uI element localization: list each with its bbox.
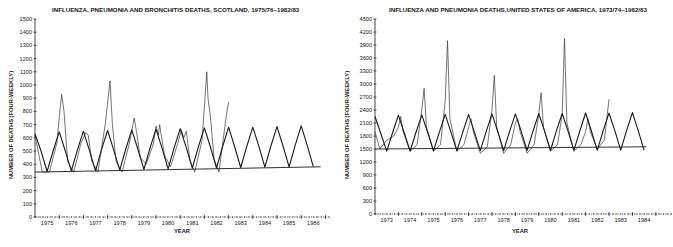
y-tick-label: 1100: [20, 69, 32, 75]
observed-deaths-line: [35, 72, 229, 172]
y-tick-label: 600: [363, 185, 372, 191]
x-tick-label: 1981: [186, 220, 198, 226]
y-axis: 0100200300400500600700800900100011001200…: [20, 16, 37, 220]
y-tick-label: 3900: [360, 42, 372, 48]
x-tick-label: 1983: [234, 220, 246, 226]
x-axis-label: YEAR: [174, 228, 191, 234]
x-tick-label: 1978: [113, 220, 125, 226]
y-tick-label: 1000: [20, 82, 32, 88]
y-tick-label: 900: [23, 95, 32, 101]
x-tick-label: 1983: [614, 217, 626, 223]
y-tick-label: 1400: [20, 29, 32, 35]
y-tick-label: 600: [23, 135, 32, 141]
x-axis: 1975197619771978197919801981198219831984…: [35, 215, 330, 226]
y-tick-label: 300: [23, 174, 32, 180]
baseline-trend-line: [35, 167, 321, 172]
x-tick-label: 1986: [307, 220, 319, 226]
y-tick-label: 900: [363, 172, 372, 178]
x-tick-label: 1977: [474, 217, 486, 223]
y-tick-label: 3300: [360, 68, 372, 74]
observed-deaths-line: [375, 39, 609, 154]
y-tick-label: 2700: [360, 94, 372, 100]
y-tick-label: 3000: [360, 81, 372, 87]
plot-lines: [35, 72, 321, 172]
x-tick-label: 1985: [283, 220, 295, 226]
x-tick-label: 1975: [41, 220, 53, 226]
y-tick-label: 2400: [360, 107, 372, 113]
y-tick-label: 1200: [20, 56, 32, 62]
x-tick-label: 1976: [451, 217, 463, 223]
y-tick-label: 100: [23, 201, 32, 207]
y-tick-label: 300: [363, 198, 372, 204]
x-tick-label: 1982: [591, 217, 603, 223]
fitted-seasonal-line: [35, 126, 313, 172]
y-tick-label: 3600: [360, 55, 372, 61]
y-axis-label: NUMBER OF DEATHS (FOUR-WEEKLY): [344, 71, 350, 179]
y-tick-label: 500: [23, 148, 32, 154]
y-tick-label: 1800: [360, 133, 372, 139]
x-tick-label: 1984: [638, 217, 650, 223]
usa-deaths-chart: INFLUENZA AND PNEUMONIA DEATHS,UNITED ST…: [337, 0, 673, 247]
y-tick-label: 4500: [360, 16, 372, 22]
x-tick-label: 1977: [89, 220, 101, 226]
y-axis: 0300600900120015001800210024002700300033…: [360, 16, 377, 217]
x-tick-label: 1980: [162, 220, 174, 226]
x-tick-label: 1976: [65, 220, 77, 226]
y-tick-label: 400: [23, 161, 32, 167]
y-tick-label: 2100: [360, 120, 372, 126]
x-tick-label: 1978: [497, 217, 509, 223]
y-tick-label: 0: [29, 214, 32, 220]
plot-lines: [375, 39, 646, 154]
y-tick-label: 1500: [360, 146, 372, 152]
y-tick-label: 1500: [20, 16, 32, 22]
fitted-seasonal-line: [375, 113, 644, 152]
y-tick-label: 1300: [20, 42, 32, 48]
x-tick-label: 1984: [259, 220, 271, 226]
scotland-chart-svg: INFLUENZA, PNEUMONIA AND BRONCHITIS DEAT…: [0, 0, 336, 247]
usa-chart-svg: INFLUENZA AND PNEUMONIA DEATHS,UNITED ST…: [337, 0, 673, 247]
x-axis-label: YEAR: [512, 228, 529, 234]
y-tick-label: 200: [23, 188, 32, 194]
y-tick-label: 700: [23, 122, 32, 128]
x-tick-label: 1979: [521, 217, 533, 223]
y-tick-label: 4200: [360, 29, 372, 35]
x-tick-label: 1973: [380, 217, 392, 223]
chart-title: INFLUENZA, PNEUMONIA AND BRONCHITIS DEAT…: [52, 6, 300, 13]
y-tick-label: 1200: [360, 159, 372, 165]
x-tick-label: 1981: [568, 217, 580, 223]
baseline-trend-line: [375, 147, 646, 149]
y-axis-label: NUMBER OF DEATHS (FOUR-WEEKLY): [8, 71, 14, 179]
chart-title: INFLUENZA AND PNEUMONIA DEATHS,UNITED ST…: [389, 6, 648, 13]
x-tick-label: 1980: [544, 217, 556, 223]
x-tick-label: 1974: [404, 217, 416, 223]
x-tick-label: 1982: [210, 220, 222, 226]
x-tick-label: 1975: [427, 217, 439, 223]
x-tick-label: 1979: [138, 220, 150, 226]
scotland-deaths-chart: INFLUENZA, PNEUMONIA AND BRONCHITIS DEAT…: [0, 0, 336, 247]
y-tick-label: 800: [23, 108, 32, 114]
x-axis: 1973197419751976197719781979198019811982…: [375, 212, 672, 223]
y-tick-label: 0: [369, 211, 372, 217]
